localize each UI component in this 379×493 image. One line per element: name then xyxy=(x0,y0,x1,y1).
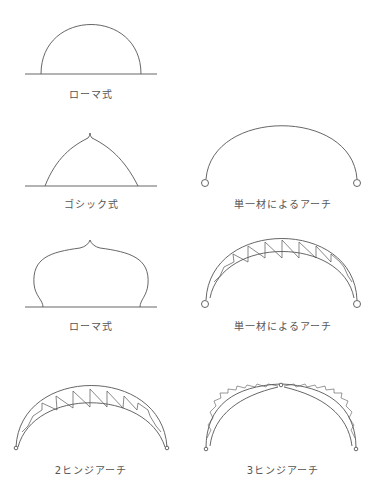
three-hinge-arch-label: 3ヒンジアーチ xyxy=(247,462,319,477)
two-hinge-arch-figure xyxy=(14,386,169,450)
gothic-arch-label: ゴシック式 xyxy=(64,196,119,211)
roman-arch-figure xyxy=(25,25,157,75)
onion-arch-label: ローマ式 xyxy=(69,318,113,333)
truss-arch-label: 単一材によるアーチ xyxy=(234,318,332,333)
single-member-arch-figure xyxy=(202,126,361,187)
gothic-arch-figure xyxy=(25,133,157,186)
two-hinge-arch-label: 2ヒンジアーチ xyxy=(55,462,127,477)
arch-diagrams xyxy=(0,0,379,493)
three-hinge-arch-figure xyxy=(204,383,358,451)
truss-arch-figure xyxy=(202,239,361,308)
roman-arch-label: ローマ式 xyxy=(69,86,113,101)
single-member-arch-label: 単一材によるアーチ xyxy=(234,196,332,211)
onion-arch-figure xyxy=(25,240,157,307)
